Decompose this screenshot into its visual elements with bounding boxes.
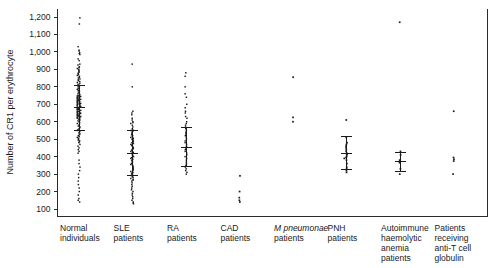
data-point bbox=[185, 111, 186, 112]
data-point bbox=[186, 97, 187, 98]
data-point bbox=[186, 104, 187, 105]
data-point bbox=[131, 187, 132, 188]
data-point bbox=[186, 118, 187, 119]
data-point bbox=[79, 166, 80, 167]
data-point bbox=[239, 201, 241, 203]
y-tick-label: 900 bbox=[36, 64, 50, 74]
data-point bbox=[132, 122, 133, 123]
data-point bbox=[184, 107, 185, 108]
data-point bbox=[292, 76, 294, 78]
x-axis-category-label: globulin bbox=[435, 253, 465, 263]
data-point bbox=[132, 111, 133, 112]
data-point bbox=[184, 86, 185, 87]
data-point bbox=[453, 157, 455, 159]
x-axis-category-label: Patients bbox=[435, 223, 466, 233]
data-point bbox=[80, 110, 81, 111]
data-point bbox=[78, 184, 79, 185]
data-point bbox=[239, 199, 241, 201]
data-point bbox=[77, 123, 78, 124]
data-point bbox=[131, 186, 132, 187]
data-point bbox=[131, 180, 132, 181]
x-axis-category-label: anemia bbox=[381, 243, 409, 253]
data-point bbox=[77, 46, 78, 47]
data-point bbox=[346, 172, 348, 174]
error-bar bbox=[395, 152, 406, 171]
y-tick-label: 100 bbox=[36, 204, 50, 214]
data-point bbox=[184, 93, 185, 94]
data-point bbox=[453, 160, 455, 162]
y-tick-label: 1,200 bbox=[29, 12, 51, 22]
data-point bbox=[130, 171, 131, 172]
data-point bbox=[78, 151, 79, 152]
data-point bbox=[343, 158, 345, 160]
data-point bbox=[133, 203, 134, 204]
data-point bbox=[80, 106, 81, 107]
y-tick-label: 500 bbox=[36, 134, 50, 144]
chart-figure: Number of CR1 per erythrocyte 1002003004… bbox=[0, 0, 495, 268]
y-axis-title: Number of CR1 per erythrocyte bbox=[5, 49, 15, 174]
data-point bbox=[131, 63, 132, 64]
data-point bbox=[130, 164, 131, 165]
data-point bbox=[130, 151, 131, 152]
dot-plot-svg: Number of CR1 per erythrocyte 1002003004… bbox=[0, 0, 495, 268]
data-point bbox=[132, 86, 133, 87]
data-point bbox=[78, 159, 79, 160]
data-point bbox=[77, 145, 78, 146]
data-point bbox=[345, 119, 347, 121]
data-point bbox=[77, 75, 78, 76]
data-point bbox=[239, 191, 241, 193]
data-point bbox=[79, 63, 80, 64]
data-point bbox=[130, 137, 131, 138]
x-axis-category-label: M pneumonae bbox=[274, 223, 329, 233]
data-point bbox=[132, 194, 133, 195]
x-axis-category-label: PNH bbox=[328, 223, 346, 233]
x-axis-category-label: Autoimmune bbox=[381, 223, 429, 233]
error-bar bbox=[127, 130, 138, 175]
data-point bbox=[292, 121, 294, 123]
data-point bbox=[452, 173, 454, 175]
x-axis-category-label: patients bbox=[381, 253, 411, 263]
data-point bbox=[132, 124, 133, 125]
data-point bbox=[185, 116, 186, 117]
data-point bbox=[77, 58, 78, 59]
data-point bbox=[79, 81, 80, 82]
data-point bbox=[78, 139, 79, 140]
data-point bbox=[239, 175, 241, 177]
data-point bbox=[79, 23, 80, 24]
x-axis-category-label: anti-T cell bbox=[435, 243, 472, 253]
data-point bbox=[399, 21, 401, 23]
x-axis-category-label: SLE bbox=[114, 223, 130, 233]
data-point bbox=[80, 116, 81, 117]
data-point bbox=[186, 121, 187, 122]
data-point bbox=[131, 182, 132, 183]
error-bar bbox=[74, 85, 85, 130]
data-point bbox=[78, 149, 79, 150]
y-tick-label: 600 bbox=[36, 117, 50, 127]
data-point bbox=[185, 72, 186, 73]
y-tick-label: 800 bbox=[36, 82, 50, 92]
y-tick-label: 1,000 bbox=[29, 47, 51, 57]
data-point bbox=[79, 170, 80, 171]
x-axis-category-label: patients bbox=[328, 233, 358, 243]
data-point bbox=[78, 147, 79, 148]
data-point bbox=[79, 191, 80, 192]
data-point bbox=[130, 123, 131, 124]
data-point bbox=[77, 109, 78, 110]
data-point bbox=[80, 99, 81, 100]
data-point bbox=[186, 173, 187, 174]
x-axis-category-label: RA bbox=[167, 223, 179, 233]
data-point bbox=[238, 197, 240, 199]
data-point bbox=[131, 184, 132, 185]
data-point bbox=[78, 163, 79, 164]
data-point bbox=[79, 78, 80, 79]
x-axis-category-label: CAD bbox=[221, 223, 239, 233]
error-bar bbox=[341, 137, 352, 170]
data-point bbox=[78, 77, 79, 78]
data-point bbox=[78, 173, 79, 174]
data-point bbox=[185, 124, 186, 125]
y-tick-label: 1,100 bbox=[29, 29, 51, 39]
x-axis-category-label: patients bbox=[274, 233, 304, 243]
data-point bbox=[77, 152, 78, 153]
data-point bbox=[78, 136, 79, 137]
data-point bbox=[131, 189, 132, 190]
